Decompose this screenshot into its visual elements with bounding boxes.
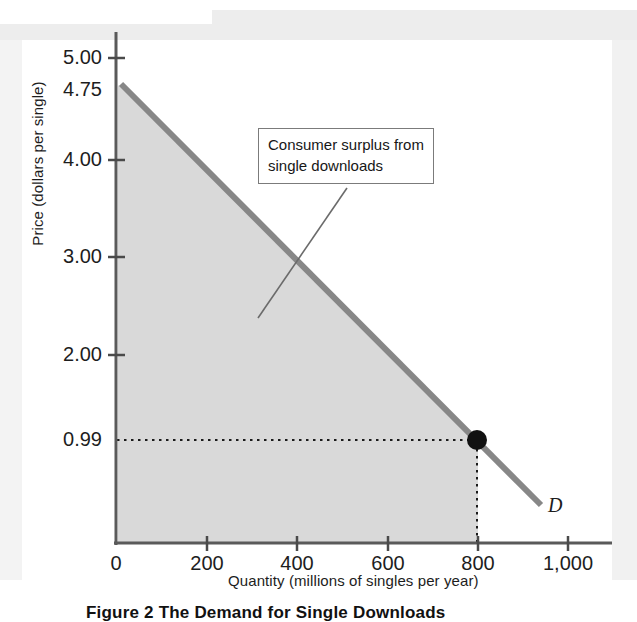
consumer-surplus-callout: Consumer surplus from single downloads <box>258 128 434 184</box>
demand-curve-label: D <box>548 494 562 517</box>
callout-line-1: Consumer surplus from <box>268 134 425 155</box>
x-tick-label-1000: 1,000 <box>533 552 603 575</box>
x-tick-label-0: 0 <box>81 552 151 575</box>
y-tick-label-2-00: 2.00 <box>22 343 102 366</box>
figure-screenshot: 5.00 4.75 4.00 3.00 2.00 0.99 0 200 400 … <box>0 0 637 622</box>
callout-line-2: single downloads <box>268 155 425 176</box>
x-axis-title: Quantity (millions of singles per year) <box>228 572 479 589</box>
y-tick-label-0-99: 0.99 <box>22 428 102 451</box>
figure-caption: Figure 2 The Demand for Single Downloads <box>86 603 445 622</box>
y-axis-title: Price (dollars per single) <box>29 49 46 279</box>
consumer-surplus-region-lower <box>118 440 478 543</box>
market-equilibrium-point <box>467 430 487 450</box>
